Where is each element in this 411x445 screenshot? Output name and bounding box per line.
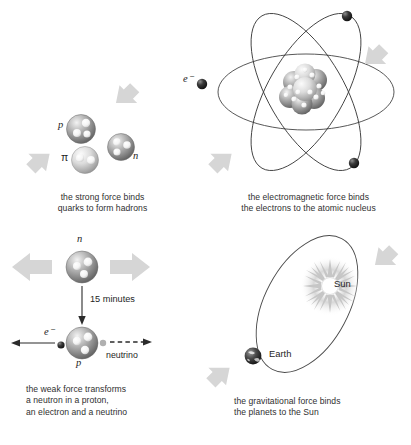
label-electron-em: e⁻ (183, 72, 194, 84)
strong-force-arrow-bottom (22, 143, 57, 178)
em-arrow-top-right (358, 40, 393, 75)
particle-neutron (108, 134, 135, 161)
neutrino-arrow (110, 338, 152, 345)
electron-arrow (11, 339, 55, 346)
label-neutron: n (133, 150, 138, 161)
weak-force-illustration (0, 226, 205, 386)
emitted-neutrino (100, 340, 106, 346)
atom-illustration (206, 0, 411, 185)
electron-top-right (342, 11, 352, 21)
label-earth: Earth (269, 348, 291, 359)
caption-gravitational-force: the gravitational force binds the planet… (206, 396, 411, 419)
strong-force-arrow-top (109, 79, 144, 114)
emitted-electron (57, 341, 64, 348)
weak-neutron (66, 251, 98, 283)
label-pion: π (61, 151, 68, 163)
electromagnetic-stage: e⁻ (206, 0, 411, 185)
weak-arrow-right (110, 253, 150, 281)
label-electron-weak: e⁻ (44, 325, 55, 337)
panel-gravitational-force: Sun Earth the gravitational force binds … (206, 226, 411, 445)
strong-force-stage: p n π (0, 0, 205, 185)
label-proton: p (58, 119, 63, 130)
caption-weak-force: the weak force transforms a neutron in a… (0, 384, 205, 418)
sun (300, 256, 360, 316)
gravity-illustration (206, 226, 411, 401)
strong-force-illustration (0, 0, 205, 185)
em-arrow-bottom-left (204, 143, 239, 178)
caption-electromagnetic-force: the electromagnetic force binds the elec… (206, 192, 411, 215)
gravity-arrow-bottom-left (202, 357, 237, 392)
atomic-nucleus (279, 64, 327, 115)
label-neutrino: neutrino (106, 350, 138, 360)
panel-strong-force: p n π the strong force binds quarks to f… (0, 0, 205, 222)
caption-strong-force: the strong force binds quarks to form ha… (0, 192, 205, 215)
label-proton-weak: p (76, 357, 81, 368)
weak-proton (66, 327, 98, 359)
particle-pion (72, 147, 99, 174)
label-sun: Sun (334, 278, 351, 289)
earth (245, 348, 262, 365)
weak-arrow-left (12, 253, 52, 281)
decay-arrow (78, 286, 85, 325)
panel-weak-force: n p e⁻ neutrino 15 minutes the weak forc… (0, 226, 205, 445)
gravity-arrow-top-right (368, 241, 403, 276)
label-neutron-weak: n (77, 233, 82, 244)
label-decay-time: 15 minutes (90, 294, 135, 304)
gravitational-stage: Sun Earth (206, 226, 411, 411)
panel-electromagnetic-force: e⁻ the electromagnetic force binds the e… (206, 0, 411, 222)
electron-bottom-right (349, 158, 359, 168)
electron-left (197, 79, 207, 89)
particle-proton (67, 115, 96, 144)
figure-root: p n π the strong force binds quarks to f… (0, 0, 411, 445)
